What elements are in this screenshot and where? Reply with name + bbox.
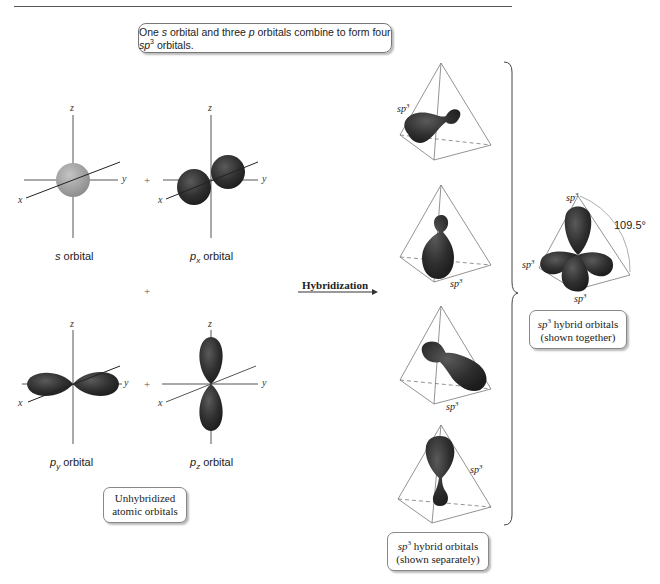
pz-orbital-figure xyxy=(162,330,258,444)
unhybridized-line2: atomic orbitals xyxy=(110,505,180,518)
unhybridized-caption-box: Unhybridized atomic orbitals xyxy=(103,487,187,523)
together-line1: sp3 hybrid orbitals xyxy=(536,315,620,331)
z-axis-label: z xyxy=(208,102,212,113)
grouping-brace xyxy=(504,62,518,525)
orbital-diagram xyxy=(0,0,660,584)
hybridization-label: Hybridization xyxy=(302,279,368,291)
sp3-label: sp3 xyxy=(446,400,458,412)
sp3-orbital-2 xyxy=(422,215,454,279)
sp3-label: sp3 xyxy=(522,258,534,270)
sp3-orbital-3 xyxy=(422,341,487,391)
sp3-orbital-1 xyxy=(404,109,460,143)
separate-line2: (shown separately) xyxy=(394,553,482,566)
separate-caption-box: sp3 hybrid orbitals (shown separately) xyxy=(387,532,489,571)
z-axis-label: z xyxy=(70,102,74,113)
sp3-label: sp3 xyxy=(574,292,586,304)
unhybridized-line1: Unhybridized xyxy=(110,492,180,505)
x-axis-label: x xyxy=(18,194,22,205)
together-line2: (shown together) xyxy=(536,331,620,344)
plus-sign: + xyxy=(144,174,150,186)
z-axis-label: z xyxy=(208,318,212,329)
sp3-combined-orbitals xyxy=(540,207,613,292)
px-orbital-figure xyxy=(163,115,258,238)
x-axis-label: x xyxy=(158,397,162,408)
plus-sign: + xyxy=(144,378,150,390)
separate-line1: sp3 hybrid orbitals xyxy=(394,537,482,553)
y-axis-label: y xyxy=(124,377,128,388)
pz-orbital-label: pz orbital xyxy=(190,456,233,471)
x-axis-label: x xyxy=(18,397,22,408)
sp3-label: sp3 xyxy=(470,463,482,475)
s-orbital-label: s orbital xyxy=(55,250,94,262)
bond-angle-label: 109.5° xyxy=(614,219,646,231)
y-axis-label: y xyxy=(262,173,266,184)
tetrahedron-1 xyxy=(400,63,491,160)
py-orbital-figure xyxy=(22,330,122,444)
py-orbital-label: py orbital xyxy=(50,456,93,471)
plus-sign: + xyxy=(144,285,150,297)
y-axis-label: y xyxy=(262,377,266,388)
together-caption-box: sp3 hybrid orbitals (shown together) xyxy=(529,310,627,349)
sp3-label: sp3 xyxy=(450,277,462,289)
sp3-label: sp3 xyxy=(566,191,578,203)
sp3-orbital-4 xyxy=(426,436,455,506)
s-orbital-figure xyxy=(24,115,120,238)
x-axis-label: x xyxy=(158,194,162,205)
z-axis-label: z xyxy=(70,318,74,329)
px-orbital-label: px orbital xyxy=(190,250,233,265)
y-axis-label: y xyxy=(122,173,126,184)
sp3-label: sp3 xyxy=(397,102,409,114)
